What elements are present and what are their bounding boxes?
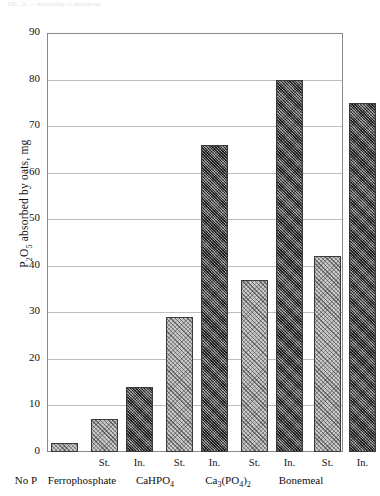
x-sublabel-Bonemeal-st: St.	[308, 457, 348, 468]
x-group-label-Bonemeal: Bonemeal	[241, 474, 361, 486]
x-sublabel-Ca3PO42-st: St.	[235, 457, 275, 468]
bar-Ferrophosphate-st	[91, 419, 118, 452]
bar-Bonemeal-st	[314, 256, 341, 452]
bar-Ca3PO42-st	[241, 280, 268, 452]
y-axis-title: P2O5 absorbed by oats, mg	[18, 104, 33, 304]
x-sublabel-CaHPO4-in: In.	[195, 457, 235, 468]
bar-CaHPO4-in	[201, 145, 228, 452]
bar-NoP-st	[51, 443, 78, 452]
bar-Ca3PO42-in	[276, 80, 303, 452]
x-sublabel-CaHPO4-st: St.	[160, 457, 200, 468]
y-axis-title-wrap: P2O5 absorbed by oats, mg	[0, 0, 36, 496]
bar-series-container	[47, 33, 343, 452]
x-sublabel-Bonemeal-in: In.	[343, 457, 380, 468]
bar-CaHPO4-st	[166, 317, 193, 452]
bar-Ferrophosphate-in	[126, 387, 153, 452]
bar-Bonemeal-in	[349, 103, 376, 452]
x-sublabel-Ferrophosphate-st: St.	[85, 457, 125, 468]
x-sublabel-Ca3PO42-in: In.	[270, 457, 310, 468]
x-sublabel-Ferrophosphate-in: In.	[120, 457, 160, 468]
x-axis: No PSt.In.FerrophosphateSt.In.CaHPO4St.I…	[0, 452, 357, 496]
